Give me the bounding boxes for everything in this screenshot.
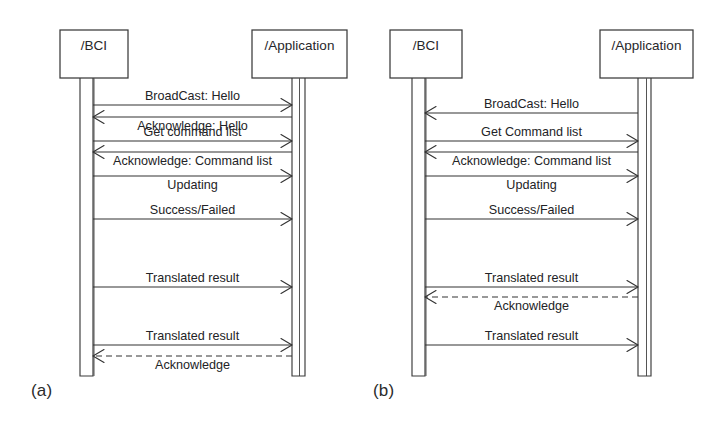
message-label: BroadCast: Hello bbox=[484, 97, 579, 111]
message-label: Acknowledge bbox=[494, 299, 569, 313]
message-label: Acknowledge: Command list bbox=[113, 154, 272, 168]
lifeline-title-application: /Application bbox=[612, 38, 682, 53]
message-b-8[interactable]: Translated result bbox=[425, 329, 638, 352]
message-b-7[interactable]: Acknowledge bbox=[425, 291, 638, 314]
message-label: Acknowledge: Command list bbox=[452, 154, 611, 168]
message-label: Translated result bbox=[146, 271, 240, 285]
message-b-1[interactable]: BroadCast: Hello bbox=[425, 97, 638, 120]
message-label: Updating bbox=[167, 178, 217, 192]
activation-bar-bci bbox=[412, 78, 425, 376]
lifeline-title-bci: /BCI bbox=[81, 38, 107, 53]
activation-bar-bci bbox=[80, 78, 93, 376]
message-b-3[interactable]: Acknowledge: Command list bbox=[425, 146, 638, 169]
message-a-7[interactable]: Translated result bbox=[93, 271, 292, 294]
message-label: Get command list bbox=[144, 125, 242, 139]
message-label: Translated result bbox=[485, 271, 579, 285]
message-a-8[interactable]: Translated result bbox=[93, 329, 292, 352]
lifeline-a-application: /Application bbox=[252, 30, 347, 376]
message-label: Translated result bbox=[485, 329, 579, 343]
diagram-canvas: /BCI/ApplicationBroadCast: HelloAcknowle… bbox=[0, 0, 722, 428]
message-b-4[interactable]: Updating bbox=[425, 170, 638, 193]
message-label: Success/Failed bbox=[489, 203, 574, 217]
message-a-3[interactable]: Get command list bbox=[93, 125, 292, 148]
message-label: BroadCast: Hello bbox=[145, 89, 240, 103]
message-label: Translated result bbox=[146, 329, 240, 343]
activation-bar-application bbox=[292, 78, 305, 376]
lifeline-a-bci: /BCI bbox=[60, 30, 128, 376]
lifeline-b-bci: /BCI bbox=[390, 30, 462, 376]
sequence-panel-b: /BCI/ApplicationBroadCast: HelloGet Comm… bbox=[390, 30, 693, 376]
message-a-1[interactable]: BroadCast: Hello bbox=[93, 89, 292, 112]
panel-caption-b: (b) bbox=[373, 381, 394, 401]
message-b-2[interactable]: Get Command list bbox=[425, 125, 638, 148]
message-b-5[interactable]: Success/Failed bbox=[425, 203, 638, 226]
message-label: Get Command list bbox=[481, 125, 582, 139]
lifeline-title-application: /Application bbox=[265, 38, 335, 53]
activation-bar-application bbox=[638, 78, 651, 376]
message-label: Success/Failed bbox=[150, 203, 235, 217]
message-b-6[interactable]: Translated result bbox=[425, 271, 638, 294]
message-a-5[interactable]: Updating bbox=[93, 170, 292, 193]
message-a-6[interactable]: Success/Failed bbox=[93, 203, 292, 226]
lifeline-title-bci: /BCI bbox=[413, 38, 439, 53]
sequence-diagram-figure: /BCI/ApplicationBroadCast: HelloAcknowle… bbox=[0, 0, 722, 428]
lifeline-b-application: /Application bbox=[600, 30, 693, 376]
sequence-panel-a: /BCI/ApplicationBroadCast: HelloAcknowle… bbox=[60, 30, 347, 376]
message-label: Acknowledge bbox=[155, 358, 230, 372]
message-a-9[interactable]: Acknowledge bbox=[93, 350, 292, 373]
message-a-4[interactable]: Acknowledge: Command list bbox=[93, 146, 292, 169]
message-label: Updating bbox=[506, 178, 556, 192]
panel-caption-a: (a) bbox=[31, 381, 52, 401]
